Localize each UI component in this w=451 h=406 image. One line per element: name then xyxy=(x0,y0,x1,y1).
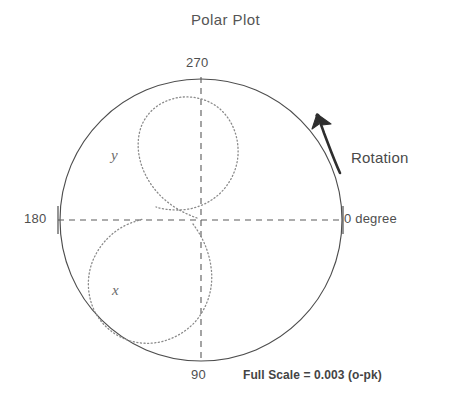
axis-tick-label-180: 180 xyxy=(24,212,47,225)
orbit-curve-y xyxy=(138,97,238,218)
rotation-arrow-icon xyxy=(312,113,340,173)
page-title: Polar Plot xyxy=(0,12,451,27)
orbit-curve-y-label: y xyxy=(111,148,118,163)
axis-tick-label-0-degree: 0 degree xyxy=(344,212,397,225)
rotation-annotation-label: Rotation xyxy=(351,150,408,165)
axis-tick-label-90: 90 xyxy=(191,368,206,381)
full-scale-caption: Full Scale = 0.003 (o-pk) xyxy=(243,369,382,381)
polar-plot-canvas xyxy=(0,0,451,406)
polar-plot-figure: Polar Plot 270 90 180 0 degree Rotation … xyxy=(0,0,451,406)
orbit-curve-x-label: x xyxy=(112,283,119,298)
axis-tick-label-270: 270 xyxy=(186,56,209,69)
